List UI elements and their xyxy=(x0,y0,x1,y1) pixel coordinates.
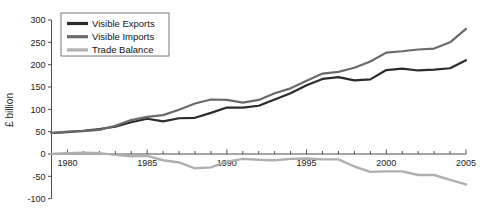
y-tick-label: 200 xyxy=(30,60,45,70)
chart-legend: Visible ExportsVisible ImportsTrade Bala… xyxy=(61,13,169,56)
legend-label: Trade Balance xyxy=(92,44,153,55)
y-tick-label: 150 xyxy=(30,82,45,92)
trade-line-chart: -100-50050100150200250300 19801985199019… xyxy=(0,0,482,217)
y-tick-label: 0 xyxy=(40,149,45,159)
x-tick-label: 2005 xyxy=(456,158,476,168)
x-tick-label: 1985 xyxy=(137,158,157,168)
y-tick-label: 300 xyxy=(30,15,45,25)
y-axis-title: £ billion xyxy=(4,93,15,127)
chart-canvas: -100-50050100150200250300 19801985199019… xyxy=(0,0,482,217)
y-tick-label: 250 xyxy=(30,38,45,48)
y-tick-label: -100 xyxy=(27,194,45,204)
y-tick-label: -50 xyxy=(32,172,45,182)
y-tick-label: 100 xyxy=(30,105,45,115)
y-tick-label: 50 xyxy=(35,127,45,137)
x-tick-label: 1980 xyxy=(57,158,77,168)
legend-label: Visible Imports xyxy=(92,31,154,42)
legend-label: Visible Exports xyxy=(92,18,155,29)
x-tick-label: 2000 xyxy=(376,158,396,168)
